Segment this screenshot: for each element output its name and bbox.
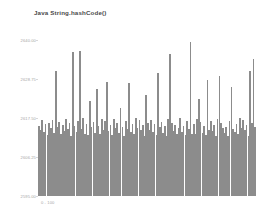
y-tick-label: 2606.25 [21,155,37,160]
x-axis-label: 0 - 100 [41,200,54,205]
chart-container: Java String.hashCode() 2640.00 2628.75 2… [0,0,279,223]
chart-title: Java String.hashCode() [34,9,106,16]
y-tick-mark [36,196,38,197]
bar-series [38,40,256,196]
y-tick-label: 2595.00 [21,194,37,199]
y-tick-label: 2617.50 [21,116,37,121]
y-tick-label: 2628.75 [21,77,37,82]
y-tick-label: 2640.00 [21,38,37,43]
plot-area [38,40,256,196]
bar [254,127,256,196]
